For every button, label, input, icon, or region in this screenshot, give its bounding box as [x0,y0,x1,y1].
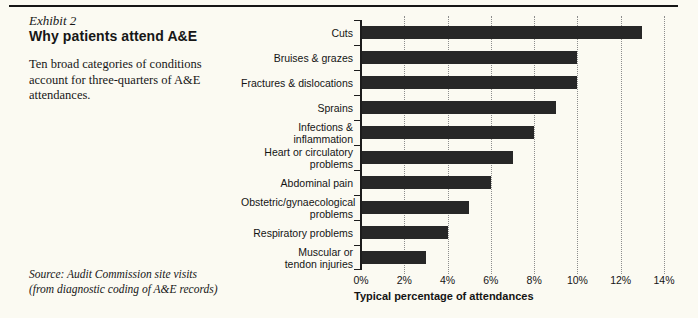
x-tick-label: 2% [397,274,412,286]
bar [361,76,577,89]
page-title: Why patients attend A&E [29,28,241,45]
bar-track [361,226,664,239]
y-axis-tick [354,45,360,46]
chart-row: Sprains [241,95,664,120]
y-axis-tick [354,269,360,270]
top-rule [9,5,678,7]
gridline [664,16,665,274]
bar-track [361,76,664,89]
x-tick-label: 0% [353,274,368,286]
chart-row: Bruises & grazes [241,45,664,70]
source-line-2: (from diagnostic coding of A&E records) [29,282,259,297]
category-label: Bruises & grazes [241,52,361,64]
y-axis-tick [354,70,360,71]
chart-row: Fractures & dislocations [241,70,664,95]
x-axis-tick-labels: 0%2%4%6%8%10%12%14% [361,274,664,287]
bar-chart: CutsBruises & grazesFractures & dislocat… [241,20,674,302]
chart-row: Muscular or tendon injuries [241,245,664,270]
bar [361,26,642,39]
source-note: Source: Audit Commission site visits (fr… [29,267,259,296]
bar [361,176,491,189]
category-label: Heart or circulatory problems [241,146,361,170]
y-axis-tick [354,220,360,221]
bar-track [361,51,664,64]
x-tick-label: 8% [527,274,542,286]
source-line-1: Source: Audit Commission site visits [29,267,259,282]
category-label: Cuts [241,27,361,39]
bar-track [361,126,664,139]
plot-area: CutsBruises & grazesFractures & dislocat… [241,20,664,270]
chart-row: Abdominal pain [241,170,664,195]
bar-track [361,176,664,189]
bar [361,51,577,64]
exhibit-label: Exhibit 2 [29,13,241,28]
x-axis-title: Typical percentage of attendances [354,290,674,302]
y-axis-tick [354,245,360,246]
chart-row: Obstetric/gynaecological problems [241,195,664,220]
left-panel: Exhibit 2 Why patients attend A&E Ten br… [29,13,241,104]
bar-track [361,151,664,164]
exhibit-description: Ten broad categories of conditions accou… [29,57,241,104]
category-label: Respiratory problems [241,227,361,239]
y-axis-tick [354,195,360,196]
category-label: Abdominal pain [241,177,361,189]
bar [361,101,556,114]
category-label: Sprains [241,102,361,114]
chart-row: Heart or circulatory problems [241,145,664,170]
y-axis-tick [354,95,360,96]
x-tick-label: 4% [440,274,455,286]
x-tick-label: 10% [567,274,588,286]
bar-track [361,101,664,114]
y-axis-tick [354,170,360,171]
category-label: Infections & inflammation [241,121,361,145]
x-tick-label: 12% [610,274,631,286]
y-axis-tick [354,145,360,146]
chart-row: Respiratory problems [241,220,664,245]
chart-row: Cuts [241,20,664,45]
y-axis-tick [354,120,360,121]
bar-track [361,251,664,264]
bar [361,126,534,139]
exhibit-page: Exhibit 2 Why patients attend A&E Ten br… [0,0,698,318]
x-tick-label: 14% [653,274,674,286]
y-axis-tick [354,20,360,21]
category-label: Fractures & dislocations [241,77,361,89]
x-tick-label: 6% [483,274,498,286]
category-label: Muscular or tendon injuries [241,246,361,270]
bar-track [361,201,664,214]
category-label: Obstetric/gynaecological problems [241,196,361,220]
bar [361,151,513,164]
bar [361,226,448,239]
chart-row: Infections & inflammation [241,120,664,145]
y-axis-line [360,20,362,270]
bar-track [361,26,664,39]
bar [361,201,469,214]
bar [361,251,426,264]
